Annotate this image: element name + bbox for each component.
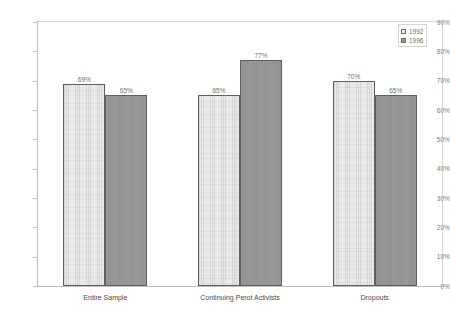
y-axis-tick-mark <box>33 286 37 287</box>
category-label: Entire Sample <box>38 293 173 302</box>
legend-swatch-icon <box>401 38 406 43</box>
bar-chart: 90%80%70%60%50%40%30%20%10%0% 69%65%65%7… <box>0 0 450 323</box>
bar-1992-3[interactable]: 70% <box>333 81 375 286</box>
category-label: Dropouts <box>307 293 442 302</box>
legend-item-1992[interactable]: 1992 <box>401 27 423 35</box>
bar-group: 65%77% <box>198 22 282 286</box>
y-axis-tick-mark <box>33 81 37 82</box>
bar-1992-1[interactable]: 69% <box>63 84 105 286</box>
y-axis-tick-mark <box>33 227 37 228</box>
bar-value-label: 69% <box>78 76 91 83</box>
bar-value-label: 77% <box>254 52 267 59</box>
bar-1996-2[interactable]: 77% <box>240 60 282 286</box>
category-label: Continuing Perot Activists <box>173 293 308 302</box>
legend-item-1996[interactable]: 1996 <box>401 36 423 44</box>
legend-label: 1992 <box>409 28 423 35</box>
y-axis-tick-mark <box>33 139 37 140</box>
chart-legend: 19921996 <box>398 24 427 47</box>
bars-layer: 69%65%65%77%70%65% <box>38 22 442 286</box>
y-axis-tick-mark <box>33 169 37 170</box>
y-axis-tick-mark <box>33 110 37 111</box>
bar-1992-2[interactable]: 65% <box>198 95 240 286</box>
bar-value-label: 70% <box>347 73 360 80</box>
x-axis-line <box>37 286 443 287</box>
bar-group: 70%65% <box>333 22 417 286</box>
legend-label: 1996 <box>409 37 423 44</box>
y-axis-tick-mark <box>33 51 37 52</box>
bar-group: 69%65% <box>63 22 147 286</box>
legend-swatch-icon <box>401 29 406 34</box>
bar-1996-3[interactable]: 65% <box>375 95 417 286</box>
y-axis-tick-mark <box>33 22 37 23</box>
bar-value-label: 65% <box>389 87 402 94</box>
bar-value-label: 65% <box>212 87 225 94</box>
y-axis-tick-mark <box>33 198 37 199</box>
bar-value-label: 65% <box>120 87 133 94</box>
bar-1996-1[interactable]: 65% <box>105 95 147 286</box>
y-axis-tick-mark <box>33 257 37 258</box>
